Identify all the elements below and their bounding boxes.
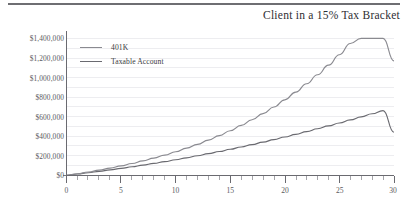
x-tick-label: 25 xyxy=(328,186,352,195)
x-tick-label: 20 xyxy=(273,186,297,195)
legend-label-401k: 401K xyxy=(111,43,128,52)
x-axis-major-ticks xyxy=(67,176,395,184)
y-tick-label: $1,400,000 xyxy=(2,34,64,43)
legend-item-401k: 401K xyxy=(80,40,164,54)
y-tick-label: $200,000 xyxy=(2,151,64,160)
legend-label-taxable-account: Taxable Account xyxy=(111,57,164,66)
chart-legend: 401K Taxable Account xyxy=(80,40,164,68)
chart-figure: Client in a 15% Tax Bracket xyxy=(0,0,408,215)
y-tick-label: $800,000 xyxy=(2,93,64,102)
y-tick-label: $1,200,000 xyxy=(2,54,64,63)
y-tick-label: $1,000,000 xyxy=(2,73,64,82)
y-tick-label: $0 xyxy=(2,171,64,180)
x-tick-label: 0 xyxy=(55,186,79,195)
x-tick-label: 30 xyxy=(381,186,405,195)
y-tick-label: $400,000 xyxy=(2,132,64,141)
legend-swatch-taxable-account xyxy=(80,61,102,62)
legend-item-taxable-account: Taxable Account xyxy=(80,54,164,68)
x-tick-label: 10 xyxy=(164,186,188,195)
plot-area xyxy=(0,0,408,215)
y-tick-label: $600,000 xyxy=(2,112,64,121)
x-tick-label: 5 xyxy=(109,186,133,195)
x-tick-label: 15 xyxy=(218,186,242,195)
series-polyline-taxable-account xyxy=(67,104,395,176)
legend-swatch-401k xyxy=(80,47,102,48)
